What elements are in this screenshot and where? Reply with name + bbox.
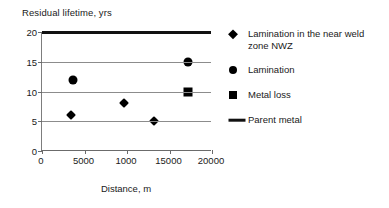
y-tick-label: 10: [26, 86, 37, 97]
legend-marker-circle-icon: [228, 64, 248, 76]
x-tick-label: 5000: [73, 155, 94, 166]
gridline-y-10: [42, 92, 211, 93]
legend-marker-line-icon: [228, 114, 248, 126]
y-tick-label: 0: [32, 146, 37, 157]
x-tick-label: 15000: [155, 155, 181, 166]
data-point-diamond: [119, 98, 129, 108]
series-line-parent-metal: [42, 31, 211, 34]
data-point-diamond: [66, 110, 76, 120]
legend-marker-diamond-icon: [228, 28, 248, 40]
legend-marker-square-icon: [228, 89, 248, 101]
line-icon: [229, 119, 246, 122]
legend-item: Parent metal: [228, 114, 386, 126]
plot-area: [41, 32, 211, 151]
legend-item: Metal loss: [228, 89, 386, 101]
legend-item-label: Lamination in the near weld zone NWZ: [248, 28, 366, 51]
x-tick-mark-0: [42, 150, 43, 154]
square-icon: [229, 91, 237, 99]
y-tick-mark-15: [38, 62, 42, 63]
x-axis-title: Distance, m: [41, 183, 211, 194]
x-tick-mark-10000: [127, 150, 128, 154]
diamond-icon: [228, 29, 237, 38]
legend-item-label: Parent metal: [248, 114, 302, 126]
y-tick-label: 5: [32, 116, 37, 127]
y-tick-label: 15: [26, 56, 37, 67]
x-tick-mark-20000: [212, 150, 213, 154]
legend-item-label: Lamination: [248, 64, 294, 76]
x-tick-label: 1000: [115, 155, 136, 166]
legend-item: Lamination in the near weld zone NWZ: [228, 28, 386, 51]
y-tick-label: 20: [26, 27, 37, 38]
chart-figure: Residual lifetime, yrs 05101520 05000100…: [0, 0, 389, 208]
y-tick-mark-5: [38, 121, 42, 122]
legend-item-label: Metal loss: [248, 89, 291, 101]
x-axis-tick-labels: 0500010001500020000: [41, 155, 211, 168]
data-point-circle: [68, 75, 77, 84]
x-tick-mark-5000: [85, 150, 86, 154]
x-tick-label: 20000: [198, 155, 224, 166]
x-tick-mark-15000: [170, 150, 171, 154]
chart-legend: Lamination in the near weld zone NWZLami…: [228, 28, 386, 139]
legend-item: Lamination: [228, 64, 386, 76]
circle-icon: [229, 66, 237, 74]
x-tick-label: 0: [38, 155, 43, 166]
y-tick-mark-10: [38, 92, 42, 93]
gridline-y-15: [42, 62, 211, 63]
y-axis-title: Residual lifetime, yrs: [22, 7, 112, 18]
gridline-y-5: [42, 121, 211, 122]
y-axis-tick-labels: 05101520: [14, 32, 37, 151]
